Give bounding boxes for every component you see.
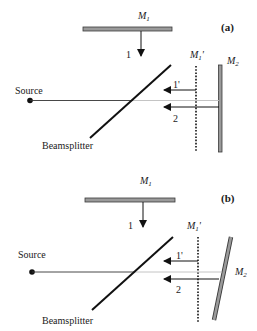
mirror2	[219, 65, 223, 152]
beam2-label: 2	[176, 284, 181, 295]
beam2-label: 2	[173, 113, 178, 124]
panel-label-a: (a)	[221, 21, 234, 34]
mirror1	[85, 198, 175, 202]
mirror1-label: M1	[139, 175, 152, 188]
beam1prime-label: 1'	[176, 250, 183, 261]
source-label: Source	[15, 85, 43, 96]
source-label: Source	[18, 249, 46, 260]
beam1prime-label: 1'	[173, 79, 180, 90]
mirror2-label: M2	[226, 55, 239, 68]
interferometer-diagram: M1 1 (a) M1' M2 Source Beamsplitter 1' 2	[0, 0, 257, 331]
mirror1-label: M1	[137, 10, 150, 23]
panel-b: M1 1 (b) M1' M2 Source Beamsplitter 1' 2	[18, 175, 247, 326]
panel-label-b: (b)	[221, 192, 235, 205]
beamsplitter-label: Beamsplitter	[42, 315, 94, 326]
mirror2-label: M2	[234, 266, 247, 279]
panel-a: M1 1 (a) M1' M2 Source Beamsplitter 1' 2	[15, 10, 239, 152]
beamsplitter	[90, 65, 171, 138]
beamsplitter	[92, 237, 173, 310]
beam1-label: 1	[126, 49, 131, 60]
beamsplitter-label: Beamsplitter	[42, 140, 94, 151]
beam1-label: 1	[128, 220, 133, 231]
mirror1	[83, 27, 172, 31]
mirror1-image-label: M1'	[189, 49, 205, 62]
mirror1-image-label: M1'	[186, 220, 202, 233]
